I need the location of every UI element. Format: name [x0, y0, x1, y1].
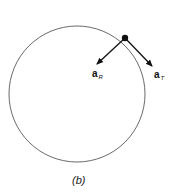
label-a-t: aT	[154, 70, 164, 81]
label-a-r: aR	[92, 69, 103, 80]
figure-caption: (b)	[72, 174, 85, 186]
radial-acceleration-arrow	[97, 38, 125, 64]
particle-dot	[122, 35, 128, 41]
tangential-acceleration-arrow	[125, 38, 152, 66]
circular-path	[9, 26, 145, 162]
diagram-canvas	[0, 0, 174, 196]
